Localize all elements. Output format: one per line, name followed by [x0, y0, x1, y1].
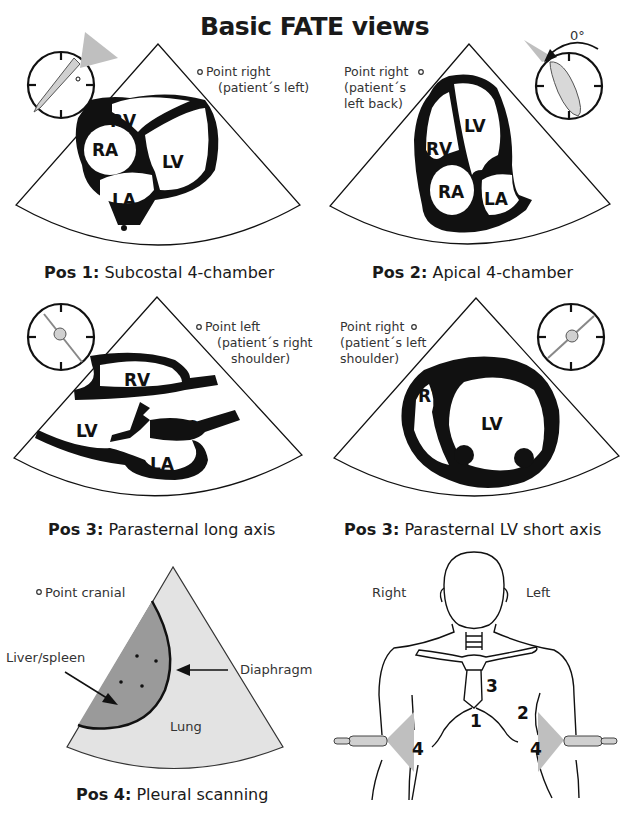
chamber-la: LA — [150, 454, 175, 474]
panel-pleural-scanning: Point cranial Liver/spleen Diaphragm Lun… — [0, 550, 315, 815]
subcostal-sector-diagram: RV RA LV LA — [0, 0, 315, 290]
label-diaphragm: Diaphragm — [240, 662, 312, 677]
orientation-marker-icon — [197, 325, 202, 330]
clock-probe-icon — [28, 304, 94, 370]
panel-parasternal-long-axis: RV AO LV LA Point left (patient´s right … — [0, 290, 315, 550]
clock-probe-icon — [524, 40, 602, 119]
caption-pos2: Pos 2: Apical 4-chamber — [372, 263, 573, 282]
chamber-ao: AO — [172, 417, 200, 437]
probe-icon — [538, 712, 617, 772]
caption-pos3-long: Pos 3: Parasternal long axis — [48, 520, 275, 539]
side-label-left: Left — [526, 585, 550, 600]
clock-probe-icon — [538, 304, 604, 370]
label-lung: Lung — [170, 719, 202, 734]
orientation-marker-icon — [198, 70, 203, 75]
chamber-lv: LV — [162, 152, 184, 172]
panel-body-positions: Right Left 1 2 3 4 4 — [314, 550, 629, 815]
caption-pos3-short: Pos 3: Parasternal LV short axis — [344, 520, 601, 539]
torso-outline-icon: Right Left 1 2 3 4 4 — [314, 550, 629, 815]
panel-parasternal-short-axis: RV LV Point right (patient´s left should… — [314, 290, 629, 550]
side-label-right: Right — [372, 585, 406, 600]
chamber-rv: RV — [124, 370, 151, 390]
panel-subcostal-4-chamber: RV RA LV LA Point right (patient´s left)… — [0, 0, 315, 290]
caption-pos4: Pos 4: Pleural scanning — [76, 785, 268, 804]
chamber-rv: RV — [426, 139, 453, 159]
orientation-marker-icon — [419, 70, 424, 75]
orientation-note: Point right (patient´s left shoulder) — [340, 319, 426, 367]
orientation-marker-icon — [37, 590, 42, 595]
orientation-note: Point left (patient´s right shoulder) — [205, 319, 312, 367]
chamber-ra: RA — [438, 182, 465, 202]
pleural-sector-diagram: Point cranial Liver/spleen Diaphragm Lun… — [0, 550, 315, 815]
position-number-2: 2 — [517, 703, 529, 723]
probe-icon — [334, 712, 414, 772]
position-number-4-right: 4 — [412, 739, 424, 759]
chamber-lv: LV — [464, 116, 486, 136]
chamber-ra: RA — [92, 140, 119, 160]
chamber-lv: LV — [481, 414, 503, 434]
chamber-rv: RV — [110, 111, 137, 131]
caption-pos1: Pos 1: Subcostal 4-chamber — [44, 263, 274, 282]
chamber-la: LA — [484, 189, 509, 209]
position-number-4-left: 4 — [530, 739, 542, 759]
label-liver-spleen: Liver/spleen — [6, 650, 85, 665]
panel-apical-4-chamber: LV RV RA LA 0° Point right (patient´s le… — [314, 0, 629, 290]
chamber-lv: LV — [76, 421, 98, 441]
position-number-3: 3 — [486, 676, 498, 696]
chamber-la: LA — [112, 190, 137, 210]
position-number-1: 1 — [470, 711, 482, 731]
apical-sector-diagram: LV RV RA LA 0° — [314, 0, 629, 290]
chamber-rv: RV — [418, 386, 445, 406]
orientation-note: Point right (patient´s left back) — [344, 64, 408, 112]
orientation-note: Point right (patient´s left) — [206, 64, 309, 96]
rotation-label: 0° — [570, 28, 585, 43]
orientation-note: Point cranial — [45, 585, 125, 600]
